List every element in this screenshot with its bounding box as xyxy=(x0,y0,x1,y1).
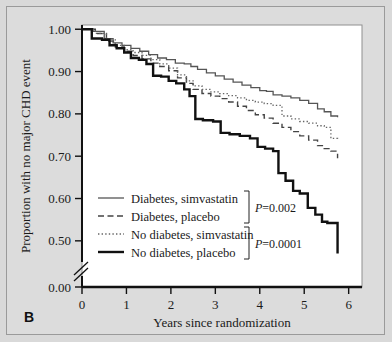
legend-label: Diabetes, simvastatin xyxy=(131,192,239,206)
y-tick-label-zero: 0.00 xyxy=(48,280,71,295)
y-tick-label: 0.50 xyxy=(48,233,71,248)
x-tick-label: 2 xyxy=(168,297,175,312)
pvalue-label: P=0.0001 xyxy=(254,237,302,251)
y-tick-label: 0.70 xyxy=(48,149,71,164)
x-tick-label: 0 xyxy=(79,297,86,312)
survival-curve-chart: 0.500.600.700.800.901.000.00 0123456 Dia… xyxy=(0,0,392,342)
figure-panel-b: 0.500.600.700.800.901.000.00 0123456 Dia… xyxy=(0,0,392,342)
y-axis-title: Proportion with no major CHD event xyxy=(18,59,33,253)
legend-label: Diabetes, placebo xyxy=(131,210,220,224)
x-axis-title: Years since randomization xyxy=(153,315,291,330)
y-axis-ticks: 0.500.600.700.800.901.000.00 xyxy=(48,22,82,295)
y-tick-label: 1.00 xyxy=(48,22,71,37)
x-tick-label: 6 xyxy=(345,297,352,312)
legend-label: No diabetes, simvastatin xyxy=(131,228,254,242)
x-tick-label: 3 xyxy=(212,297,219,312)
x-tick-label: 5 xyxy=(301,297,308,312)
legend-label: No diabetes, placebo xyxy=(131,246,235,260)
pvalue-label: P=0.002 xyxy=(254,201,296,215)
y-tick-label: 0.80 xyxy=(48,106,71,121)
x-tick-label: 4 xyxy=(257,297,264,312)
y-tick-label: 0.60 xyxy=(48,191,71,206)
y-tick-label: 0.90 xyxy=(48,64,71,79)
x-tick-label: 1 xyxy=(123,297,130,312)
x-axis-ticks: 0123456 xyxy=(79,287,353,312)
panel-label: B xyxy=(24,309,34,325)
